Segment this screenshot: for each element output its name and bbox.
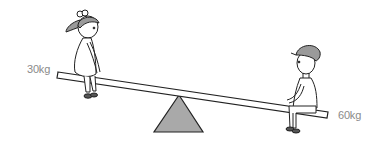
boy-figure [286,46,320,133]
fulcrum-triangle [154,95,203,132]
right-weight-label: 60kg [338,109,361,121]
seesaw-diagram [0,0,382,145]
left-weight-label: 30kg [27,63,50,75]
girl-figure [66,10,100,98]
